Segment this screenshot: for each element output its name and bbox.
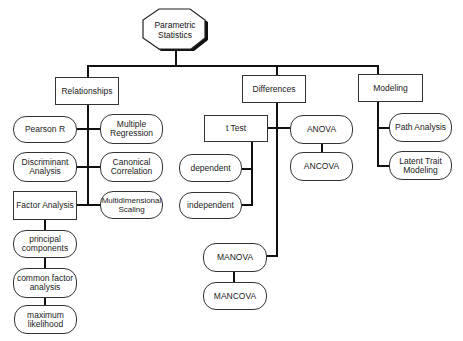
ancova-label: ANCOVA [304, 162, 339, 171]
modeling-node: Modeling [358, 74, 423, 102]
relationships-label: Relationships [61, 87, 112, 96]
pearson-r-node: Pearson R [13, 116, 77, 143]
conn-disc-canon [77, 166, 100, 168]
root-label-line1: Parametric [154, 20, 195, 30]
conn-path [377, 127, 389, 129]
conn-manova-mancova [233, 272, 235, 282]
latent-line2: Modeling [403, 165, 438, 175]
discriminant-analysis-node: DiscriminantAnalysis [13, 152, 77, 182]
conn-manova [267, 255, 278, 257]
ancova-node: ANCOVA [290, 152, 353, 181]
t-test-node: t Test [204, 115, 268, 142]
root-label-line2: Statistics [158, 30, 192, 40]
mancova-node: MANCOVA [203, 282, 267, 310]
main-horizontal-bar [87, 65, 379, 67]
t-test-label: t Test [226, 124, 246, 133]
path-analysis-label: Path Analysis [395, 123, 446, 132]
differences-label: Differences [253, 85, 296, 94]
root-node: ParametricStatistics [143, 10, 207, 50]
canonical-correlation-node: CanonicalCorrelation [100, 152, 163, 182]
mancova-label: MANCOVA [214, 292, 256, 301]
canonical-line2: Correlation [111, 166, 153, 176]
factor-analysis-node: Factor Analysis [13, 191, 77, 220]
modeling-drop [377, 65, 379, 74]
independent-label: independent [187, 201, 234, 210]
conn-pearson-mr [77, 128, 100, 130]
relationships-drop [87, 65, 89, 77]
multidimensional-scaling-node: MultidimensionalScaling [100, 191, 163, 219]
conn-ttest-anova [268, 127, 290, 129]
principal-components-node: principalcomponents [13, 230, 77, 258]
parametric-statistics-tree: ParametricStatistics Relationships Diffe… [0, 0, 463, 341]
manova-node: MANOVA [203, 243, 267, 272]
multiple-regression-line2: Regression [110, 128, 153, 138]
maximum-likelihood-node: maximumlikelihood [14, 305, 77, 334]
common-factor-analysis-node: common factoranalysis [13, 268, 77, 298]
conn-latent [377, 165, 389, 167]
mds-line2: Scaling [118, 205, 144, 214]
principal-line2: components [22, 243, 68, 253]
path-analysis-node: Path Analysis [389, 113, 452, 142]
conn-anova-ancova [321, 144, 323, 152]
modeling-label: Modeling [373, 84, 408, 93]
relationships-node: Relationships [55, 77, 119, 105]
anova-node: ANOVA [290, 115, 353, 144]
common-line2: analysis [30, 282, 61, 292]
ttest-sub-trunk [251, 141, 253, 206]
independent-node: independent [179, 192, 242, 219]
ml-line2: likelihood [28, 319, 63, 329]
discriminant-line2: Analysis [29, 166, 61, 176]
mds-line1: Multidimensional [102, 196, 162, 205]
anova-label: ANOVA [307, 125, 336, 134]
relationships-trunk [87, 105, 89, 206]
factor-analysis-label: Factor Analysis [16, 201, 74, 210]
manova-label: MANOVA [217, 253, 253, 262]
conn-dependent [242, 168, 253, 170]
differences-drop [276, 65, 278, 75]
conn-independent [242, 204, 253, 206]
pearson-r-label: Pearson R [25, 125, 65, 134]
multiple-regression-node: MultipleRegression [100, 114, 163, 144]
modeling-trunk [377, 102, 379, 167]
dependent-label: dependent [190, 164, 230, 173]
differences-node: Differences [242, 75, 306, 103]
dependent-node: dependent [179, 154, 242, 182]
conn-factor-mds [77, 204, 100, 206]
latent-trait-modeling-node: Latent TraitModeling [389, 151, 452, 180]
